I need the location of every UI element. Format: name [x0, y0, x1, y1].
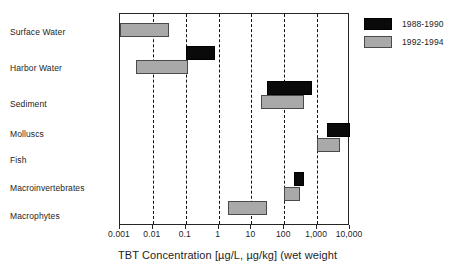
- legend-item: 1992-1994: [364, 35, 452, 49]
- range-bar: [267, 81, 312, 95]
- x-axis-title: TBT Concentration [µg/L, µg/kg] (wet wei…: [0, 248, 455, 262]
- chart-figure: Surface WaterHarbor WaterSedimentMollusc…: [0, 0, 455, 272]
- legend: 1988-19901992-1994: [364, 17, 452, 53]
- range-bar: [294, 172, 304, 186]
- range-bar: [120, 23, 169, 37]
- legend-swatch: [364, 36, 392, 48]
- range-bar: [284, 187, 300, 201]
- range-bar: [228, 201, 267, 215]
- gridline: [251, 14, 252, 224]
- category-label: Macroinvertebrates: [10, 183, 118, 193]
- legend-label: 1992-1994: [402, 37, 444, 47]
- category-label: Molluscs: [10, 129, 118, 139]
- category-label: Harbor Water: [10, 63, 118, 73]
- legend-item: 1988-1990: [364, 17, 452, 31]
- gridline: [153, 14, 154, 224]
- plot-area: [119, 13, 349, 225]
- gridline: [219, 14, 220, 224]
- legend-label: 1988-1990: [402, 19, 444, 29]
- x-tick-label: 10,000: [336, 229, 363, 240]
- x-tick-label: 0.01: [143, 229, 160, 240]
- x-tick-label: 0.1: [179, 229, 191, 240]
- range-bar: [136, 60, 189, 74]
- category-label: Macrophytes: [10, 211, 118, 221]
- range-bar: [186, 46, 216, 60]
- range-bar: [327, 123, 350, 137]
- range-bar: [261, 95, 304, 109]
- x-tick-label: 1: [215, 229, 220, 240]
- legend-swatch: [364, 18, 392, 30]
- category-label: Surface Water: [10, 27, 118, 37]
- gridline: [317, 14, 318, 224]
- x-tick-label: 100: [276, 229, 290, 240]
- x-tick-label: 10: [246, 229, 256, 240]
- x-tick-label: 0.001: [108, 229, 130, 240]
- range-bar: [317, 138, 340, 152]
- x-tick-label: 1,000: [305, 229, 327, 240]
- category-label: Sediment: [10, 99, 118, 109]
- category-label: Fish: [10, 155, 118, 165]
